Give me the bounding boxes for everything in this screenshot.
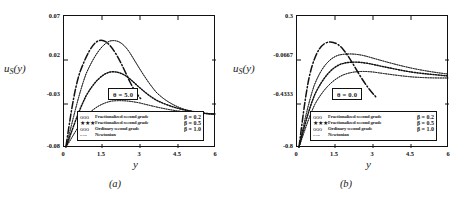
caption-a: (a) [0,178,230,189]
legend-marker-circles-icon: ooo [80,126,93,132]
x-tick-b-2: 3 [365,150,379,157]
y-tick-b-2: -0.4333 [257,90,293,97]
y-axis-label-a: uS(y) [4,62,26,76]
y-tick-b-1: -0.0667 [257,51,293,58]
legend-marker-stars-icon: ★★★ [80,120,93,126]
annotation-theta-a: θ = 5.0 [108,88,138,100]
y-tick-a-0: 0.07 [34,12,60,19]
legend-marker-stars-icon: ★★★ [313,120,326,126]
legend-item: ⋅−⋅ Newtonian [78,132,203,138]
y-tick-a-2: -0.03 [32,90,60,97]
legend-marker-dashdot-icon: ⋅−⋅ [313,132,326,138]
legend-marker-dashdot-icon: ⋅−⋅ [80,132,93,138]
y-tick-b-3: -0.8 [265,142,293,149]
y-axis-label-b: uS(y) [233,62,255,76]
legend-marker-circles-icon: ooo [313,126,326,132]
legend-item: ⋅−⋅ Newtonian [311,132,436,138]
x-tick-b-4: 6 [441,150,455,157]
y-tick-a-3: -0.08 [32,142,60,149]
x-tick-a-0: 0 [56,150,70,157]
legend-a: ooo Fractionalized second grade β = 0.2 … [77,111,204,141]
x-tick-b-0: 0 [289,150,303,157]
y-tick-a-1: 0.02 [34,51,60,58]
x-tick-a-1: 1.5 [94,150,108,157]
x-tick-a-3: 4.5 [170,150,184,157]
x-axis-label-b: y [366,158,371,170]
legend-marker-circles-icon: ooo [313,114,326,120]
y-tick-b-0: 0.3 [267,12,293,19]
x-tick-a-2: 3 [132,150,146,157]
caption-b: (b) [231,178,461,189]
legend-b: ooo Fractionalized second grade β = 0.2 … [310,111,437,141]
x-tick-b-3: 4.5 [403,150,417,157]
figure-container: uS(y) 0.07 0.02 -0.03 -0.08 [0,0,461,205]
x-axis-label-a: y [133,158,138,170]
panel-b: uS(y) 0.3 -0.0667 -0.4333 -0.8 [231,0,461,205]
annotation-theta-b: θ = 0.0 [332,88,362,100]
legend-marker-circles-icon: ooo [80,114,93,120]
x-tick-a-4: 6 [208,150,222,157]
panel-a: uS(y) 0.07 0.02 -0.03 -0.08 [0,0,230,205]
x-tick-b-1: 1.5 [327,150,341,157]
